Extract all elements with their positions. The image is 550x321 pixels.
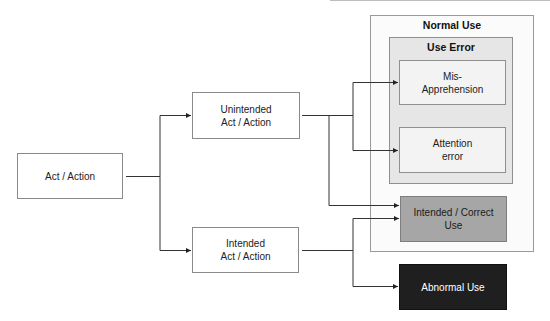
connector-lines bbox=[0, 0, 550, 321]
edge-unintended-misapprehension bbox=[353, 83, 398, 116]
edge-intended-abnormal bbox=[353, 251, 398, 287]
edge-unintended-correct bbox=[329, 116, 399, 206]
edge-unintended-attention bbox=[353, 116, 398, 151]
edge-root-unintended bbox=[160, 116, 191, 177]
edge-root-intended bbox=[160, 177, 191, 251]
edge-intended-correct bbox=[353, 219, 399, 251]
